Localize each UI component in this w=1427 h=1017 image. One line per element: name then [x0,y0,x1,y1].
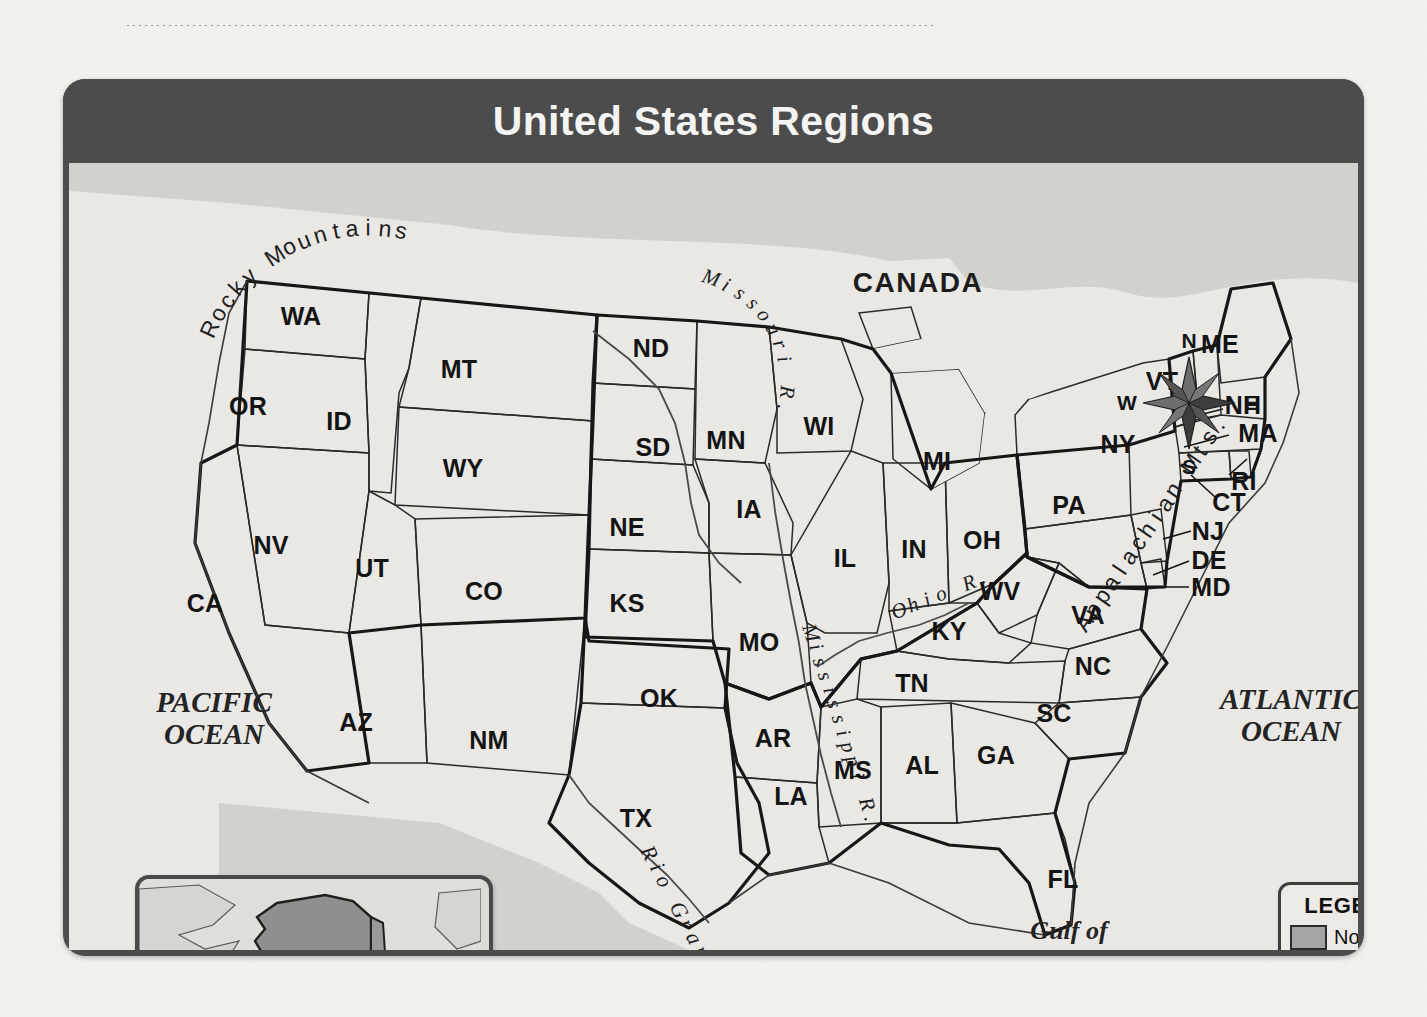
state-label-nm: NM [469,726,508,755]
state-label-nc: NC [1075,652,1112,681]
state-label-ca: CA [187,589,224,618]
dotted-rule-divider [125,24,935,27]
page-title: United States Regions [493,98,934,145]
state-label-ga: GA [977,741,1015,770]
state-label-de: DE [1191,546,1226,575]
state-label-ia: IA [736,495,761,524]
state-label-ky: KY [931,617,966,646]
map-title-bar: United States Regions [63,79,1364,163]
country-label-canada: CANADA [853,267,983,299]
pacific-ocean-line2: OCEAN [156,718,272,750]
inset-map-alaska: AK [135,875,493,950]
state-label-mn: MN [706,426,745,455]
legend-rows: NortheastSoutheastMidwestSouthwestWest [1288,924,1358,950]
state-label-nd: ND [633,334,670,363]
state-label-sd: SD [635,433,670,462]
state-label-mt: MT [441,355,478,384]
state-label-pa: PA [1052,491,1085,520]
state-label-tn: TN [895,669,929,698]
compass-label-south: S [1182,455,1196,479]
state-label-wy: WY [443,454,484,483]
compass-label-north: N [1181,329,1196,353]
feature-label-rocky-mountains: Rocky Mountains [369,403,370,404]
legend-label-northeast: Northeast [1334,926,1358,949]
feature-label-mississippi-river: Mississippi R. [811,633,812,634]
state-label-ct: CT [1212,488,1246,517]
map-frame: United States Regions [63,79,1364,956]
gulf-of-mexico-line2: Mexico [1029,945,1108,950]
feature-label-rio-grande: Rio Grande [649,853,650,854]
state-label-oh: OH [963,526,1001,555]
state-label-al: AL [905,751,939,780]
state-label-co: CO [465,577,503,606]
state-label-mo: MO [739,628,780,657]
state-label-tx: TX [620,804,652,833]
atlantic-ocean-line2: OCEAN [1220,715,1358,747]
state-label-ne: NE [609,513,644,542]
state-label-ut: UT [355,554,389,583]
compass-label-east: E [1244,391,1258,415]
page-background: United States Regions [0,0,1427,1017]
state-label-la: LA [774,782,808,811]
state-label-wa: WA [281,302,322,331]
alaska-map-graphic [139,879,481,950]
legend-swatch-northeast [1290,925,1327,950]
state-label-fl: FL [1048,865,1079,894]
pacific-ocean-line1: PACIFIC [156,686,272,718]
legend-title: LEGEND [1288,893,1358,919]
state-label-nv: NV [253,531,288,560]
state-label-va: VA [1071,601,1104,630]
feature-label-ohio-river: Ohio R. [899,611,900,612]
state-label-ok: OK [640,684,678,713]
compass-rose: N E S W [1115,329,1263,477]
state-label-ks: KS [609,589,644,618]
compass-label-west: W [1117,391,1137,415]
water-label-atlantic-ocean: ATLANTIC OCEAN [1220,683,1358,748]
water-label-pacific-ocean: PACIFIC OCEAN [156,686,272,751]
state-label-nj: NJ [1192,517,1224,546]
map-legend: LEGEND NortheastSoutheastMidwestSouthwes… [1278,882,1358,950]
state-label-in: IN [901,535,926,564]
state-label-il: IL [834,544,857,573]
gulf-of-mexico-line1: Gulf of [1029,916,1108,945]
state-label-sc: SC [1036,699,1071,728]
state-label-wi: WI [804,412,835,441]
state-label-id: ID [326,407,351,436]
feature-label-missouri-river: Missouri R. [677,383,678,384]
map-canvas: CANADA MEXICO PACIFIC OCEAN ATLANTIC OCE… [69,163,1358,950]
state-label-wv: WV [980,577,1021,606]
state-label-or: OR [229,392,267,421]
state-label-md: MD [1191,573,1230,602]
state-label-ms: MS [834,756,872,785]
state-label-mi: MI [923,447,951,476]
state-label-az: AZ [339,708,373,737]
water-label-gulf-of-mexico: Gulf of Mexico [1029,916,1108,950]
atlantic-ocean-line1: ATLANTIC [1220,683,1358,715]
legend-row-northeast: Northeast [1290,924,1358,950]
state-label-ar: AR [755,724,792,753]
